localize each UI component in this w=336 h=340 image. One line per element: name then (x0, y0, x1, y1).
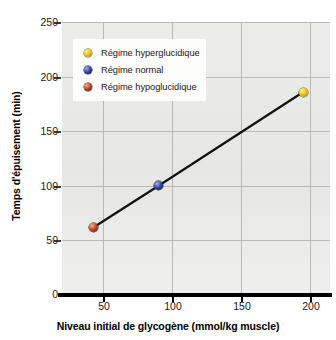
legend-item-hypoglucidique[interactable]: Régime hypoglucidique (77, 78, 202, 95)
chart-figure: Régime hyperglucidique Régime normal Rég… (0, 0, 336, 340)
y-axis-tick-label: 100 (16, 180, 58, 192)
sphere-marker-blue-icon (84, 66, 92, 74)
legend-item-hyperglucidique[interactable]: Régime hyperglucidique (77, 44, 202, 61)
chart-legend: Régime hyperglucidique Régime normal Rég… (73, 39, 206, 101)
x-axis-tick-label: 150 (222, 300, 262, 312)
sphere-marker-yellow-icon (84, 49, 92, 57)
y-axis-tick-label: 250 (16, 16, 58, 28)
x-axis-tick-label: 50 (84, 300, 124, 312)
x-axis-tick-label: 100 (153, 300, 193, 312)
y-axis-tick-label: 50 (16, 234, 58, 246)
series-polyline (94, 92, 304, 227)
y-axis-tick-label: 200 (16, 71, 58, 83)
legend-label: Régime hypoglucidique (101, 82, 197, 92)
x-axis-tick-label: 200 (291, 300, 331, 312)
plot-area: Régime hyperglucidique Régime normal Rég… (62, 22, 330, 295)
x-axis-line (58, 293, 332, 297)
x-axis-title: Niveau initial de glycogène (mmol/kg mus… (0, 320, 336, 332)
sphere-marker-red-icon (84, 83, 92, 91)
legend-item-normal[interactable]: Régime normal (77, 61, 202, 78)
legend-label: Régime hyperglucidique (101, 48, 200, 58)
y-axis-tick-label: 0 (16, 288, 58, 300)
legend-label: Régime normal (101, 65, 163, 75)
y-axis-tick-label: 150 (16, 125, 58, 137)
data-point-hypoglucidique[interactable] (89, 223, 98, 232)
data-point-hyperglucidique[interactable] (299, 88, 308, 97)
y-axis-title: Temps d'épuisement (min) (10, 46, 22, 266)
